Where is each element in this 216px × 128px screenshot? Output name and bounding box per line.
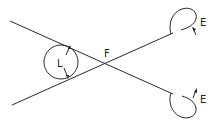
dimension-L-arrows <box>64 45 71 79</box>
diagram-canvas: L F E E <box>0 0 216 128</box>
label-L: L <box>57 58 63 69</box>
line-descending <box>10 21 173 94</box>
upper-arrow <box>192 27 196 35</box>
label-E-lower: E <box>200 94 206 105</box>
line-ascending <box>12 33 173 105</box>
label-E-upper: E <box>200 17 206 28</box>
upper-loop <box>170 8 196 34</box>
label-F: F <box>104 48 110 59</box>
lower-arrow <box>193 88 197 98</box>
lower-loop <box>170 93 196 118</box>
